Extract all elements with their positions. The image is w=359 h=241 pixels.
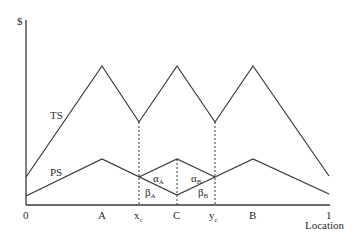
alpha-b-label: αB <box>191 172 202 186</box>
beta-a-label: βA <box>145 186 156 200</box>
tick-xc: xc <box>134 209 143 224</box>
ts-label: TS <box>50 109 63 121</box>
diagram-canvas: $ Location TS PS 0 A xc C yc B 1 αA βA α… <box>0 0 359 241</box>
x-axis-label: Location <box>305 219 345 231</box>
tick-a: A <box>98 209 106 221</box>
tick-c: C <box>173 209 180 221</box>
tick-1: 1 <box>326 209 332 221</box>
tick-yc: yc <box>209 209 218 224</box>
tick-b: B <box>249 209 256 221</box>
y-axis-label: $ <box>17 15 23 27</box>
ps-label: PS <box>50 166 62 178</box>
alpha-a-label: αA <box>153 172 164 186</box>
tick-0: 0 <box>23 209 29 221</box>
beta-b-label: βB <box>198 186 209 200</box>
